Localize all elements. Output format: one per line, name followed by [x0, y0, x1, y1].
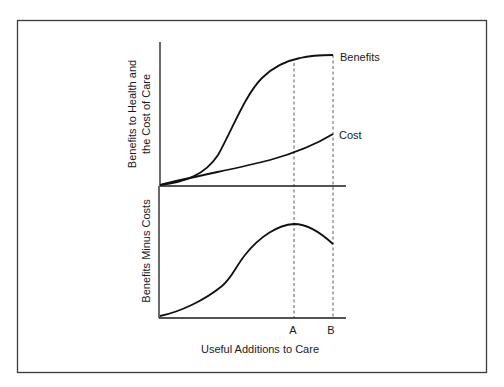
marker-a-label: A — [289, 324, 297, 336]
benefit-cost-diagram: Benefits Cost Benefits to Health and the… — [0, 0, 504, 387]
net-benefit-curve — [160, 224, 333, 316]
lower-y-label: Benefits Minus Costs — [140, 199, 152, 303]
upper-y-label-line1: Benefits to Health and — [126, 60, 138, 168]
figure-frame — [18, 21, 487, 373]
marker-b-label: B — [327, 324, 334, 336]
cost-curve — [160, 134, 333, 185]
upper-y-label-line2: the Cost of Care — [140, 74, 152, 154]
x-axis-label: Useful Additions to Care — [201, 343, 319, 355]
cost-label: Cost — [339, 129, 362, 141]
benefits-label: Benefits — [340, 51, 380, 63]
